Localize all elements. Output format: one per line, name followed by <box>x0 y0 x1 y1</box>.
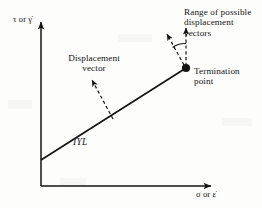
yield-locus-diagram: τ or γ̇ σ or ε̇ Range of possible displa… <box>0 0 262 208</box>
iyl-line <box>41 68 186 160</box>
displacement-vector-label: Displacement vector <box>57 53 131 74</box>
range-vector-oblique-arrow <box>167 34 184 65</box>
y-axis-label: τ or γ̇ <box>13 14 32 24</box>
displacement-vector-arrow <box>92 80 113 119</box>
x-axis-label: σ or ε̇ <box>196 189 216 199</box>
iyl-label: IYL <box>73 137 88 147</box>
termination-point-marker <box>182 64 190 72</box>
range-of-vectors-label: Range of possible displacement vectors <box>184 7 251 38</box>
termination-point-label: Termination point <box>194 66 240 87</box>
